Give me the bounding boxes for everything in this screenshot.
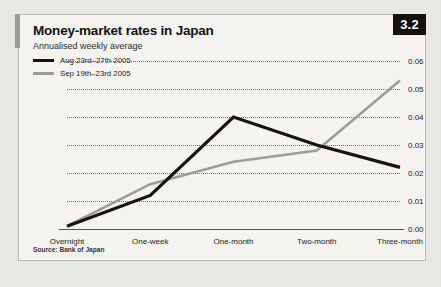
x-axis-tick-label: One-week bbox=[132, 237, 168, 246]
y-axis-tick-label: 0.03 bbox=[408, 141, 424, 150]
y-axis-tick-label: 0.04 bbox=[408, 113, 424, 122]
x-axis-line bbox=[59, 229, 404, 230]
y-axis-tick-label: 0.02 bbox=[408, 169, 424, 178]
chart-source: Source: Bank of Japan bbox=[33, 246, 104, 253]
series-line-aug bbox=[67, 117, 400, 226]
title-accent-bar bbox=[15, 14, 20, 48]
y-axis-tick-label: 0.01 bbox=[408, 197, 424, 206]
y-axis-tick-label: 0.05 bbox=[408, 85, 424, 94]
x-axis-tick-label: Two-month bbox=[297, 237, 337, 246]
y-axis-tick-label: 0.06 bbox=[408, 57, 424, 66]
legend-swatch-aug-icon bbox=[33, 59, 54, 63]
x-axis-tick-label: One-month bbox=[213, 237, 253, 246]
chart-title: Money-market rates in Japan bbox=[33, 23, 214, 38]
chart-figure: 3.2 Money-market rates in Japan Annualis… bbox=[18, 14, 426, 261]
plot-area: 0.000.010.020.030.040.050.06OvernightOne… bbox=[67, 61, 400, 229]
x-axis-tick-label: Three-month bbox=[377, 237, 423, 246]
legend-swatch-sep-icon bbox=[33, 72, 54, 75]
series-canvas bbox=[67, 61, 400, 229]
figure-number-badge: 3.2 bbox=[393, 14, 426, 35]
x-axis-tick-label: Overnight bbox=[50, 237, 85, 246]
chart-subtitle: Annualised weekly average bbox=[33, 41, 143, 51]
y-axis-tick-label: 0.00 bbox=[408, 225, 424, 234]
